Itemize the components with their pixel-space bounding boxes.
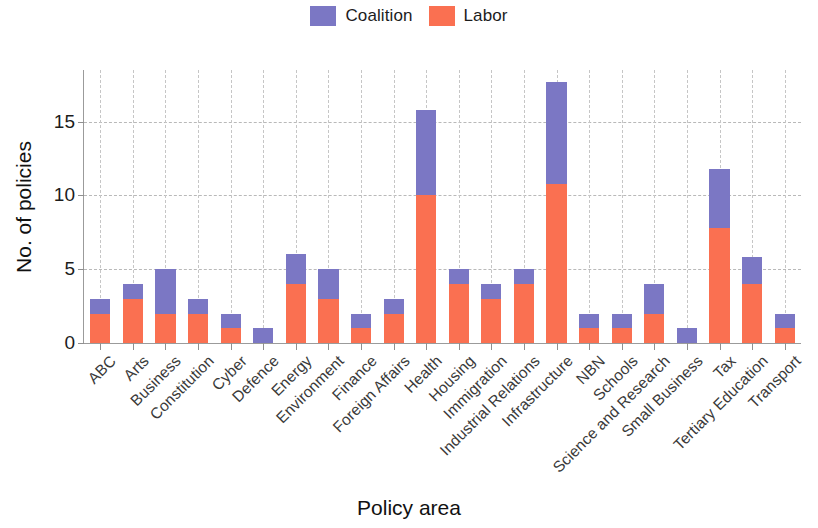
bar-segment-coalition <box>481 284 501 299</box>
bar-segment-labor <box>384 314 404 344</box>
bar-group <box>188 299 208 343</box>
bar-segment-labor <box>123 299 143 343</box>
bar-segment-labor <box>90 314 110 344</box>
bar-segment-coalition <box>221 314 241 329</box>
bar-segment-labor <box>644 314 664 344</box>
bar-group <box>286 254 306 343</box>
bar-segment-labor <box>286 284 306 343</box>
x-tick-label: ABC <box>85 352 120 387</box>
bar-group <box>579 314 599 344</box>
x-tick-mark <box>133 343 134 350</box>
bar-chart-figure: Coalition Labor 051015 ABCArtsBusinessCo… <box>0 0 818 528</box>
bar-group <box>709 169 729 343</box>
legend-swatch-coalition <box>310 6 336 26</box>
x-tick-mark <box>263 343 264 350</box>
bar-segment-labor <box>514 284 534 343</box>
bar-segment-labor <box>612 328 632 343</box>
bar-group <box>384 299 404 343</box>
bar-group <box>644 284 664 343</box>
bar-group <box>318 269 338 343</box>
y-tick-label: 0 <box>64 332 75 354</box>
bar-group <box>612 314 632 344</box>
x-tick-mark <box>198 343 199 350</box>
x-tick-mark <box>589 343 590 350</box>
bar-segment-coalition <box>677 328 697 343</box>
chart-legend: Coalition Labor <box>0 6 818 26</box>
y-axis-title: No. of policies <box>12 141 36 273</box>
y-tick-label: 15 <box>54 111 75 133</box>
bar-group <box>514 269 534 343</box>
bar-segment-labor <box>416 195 436 343</box>
bar-segment-labor <box>188 314 208 344</box>
x-tick-mark <box>459 343 460 350</box>
bar-segment-labor <box>546 184 566 343</box>
bar-segment-labor <box>449 284 469 343</box>
x-tick-mark <box>231 343 232 350</box>
bar-group <box>677 328 697 343</box>
bar-segment-coalition <box>449 269 469 284</box>
bar-segment-coalition <box>742 257 762 284</box>
bar-segment-coalition <box>612 314 632 329</box>
legend-item-coalition: Coalition <box>310 6 412 26</box>
bar-group <box>90 299 110 343</box>
x-tick-mark <box>622 343 623 350</box>
x-tick-mark <box>524 343 525 350</box>
x-tick-mark <box>654 343 655 350</box>
x-tick-mark <box>557 343 558 350</box>
bar-segment-coalition <box>384 299 404 314</box>
bar-segment-coalition <box>579 314 599 329</box>
bar-group <box>546 82 566 343</box>
x-tick-mark <box>100 343 101 350</box>
bar-segment-labor <box>481 299 501 343</box>
bar-segment-coalition <box>155 269 175 313</box>
legend-label-labor: Labor <box>464 6 508 26</box>
x-tick-mark <box>752 343 753 350</box>
bar-group <box>449 269 469 343</box>
bar-group <box>123 284 143 343</box>
bar-segment-labor <box>709 228 729 343</box>
bar-segment-coalition <box>709 169 729 228</box>
bar-segment-coalition <box>775 314 795 329</box>
bar-group <box>742 257 762 343</box>
bar-series-container <box>84 70 801 343</box>
y-tick-mark <box>78 343 84 344</box>
bar-segment-coalition <box>253 328 273 343</box>
bar-segment-labor <box>775 328 795 343</box>
bar-group <box>155 269 175 343</box>
x-tick-mark <box>394 343 395 350</box>
bar-group <box>416 110 436 343</box>
legend-swatch-labor <box>429 6 455 26</box>
bar-segment-coalition <box>416 110 436 196</box>
y-tick-label: 10 <box>54 184 75 206</box>
bar-segment-labor <box>221 328 241 343</box>
x-tick-mark <box>687 343 688 350</box>
bar-segment-coalition <box>514 269 534 284</box>
bar-group <box>481 284 501 343</box>
bar-segment-coalition <box>188 299 208 314</box>
x-tick-mark <box>720 343 721 350</box>
bar-segment-coalition <box>90 299 110 314</box>
bar-group <box>775 314 795 344</box>
x-tick-mark <box>426 343 427 350</box>
bar-segment-coalition <box>546 82 566 184</box>
x-tick-mark <box>491 343 492 350</box>
bar-segment-labor <box>318 299 338 343</box>
bar-segment-labor <box>351 328 371 343</box>
x-tick-mark <box>361 343 362 350</box>
bar-segment-coalition <box>644 284 664 314</box>
x-axis-title: Policy area <box>0 496 818 520</box>
x-tick-mark <box>296 343 297 350</box>
bar-group <box>221 314 241 344</box>
bar-group <box>253 328 273 343</box>
legend-item-labor: Labor <box>429 6 508 26</box>
bar-segment-coalition <box>123 284 143 299</box>
plot-area: 051015 <box>83 70 801 344</box>
x-tick-mark <box>165 343 166 350</box>
legend-label-coalition: Coalition <box>345 6 412 26</box>
bar-segment-labor <box>742 284 762 343</box>
bar-segment-labor <box>155 314 175 344</box>
y-tick-label: 5 <box>64 258 75 280</box>
bar-group <box>351 314 371 344</box>
bar-segment-coalition <box>351 314 371 329</box>
x-tick-mark <box>785 343 786 350</box>
